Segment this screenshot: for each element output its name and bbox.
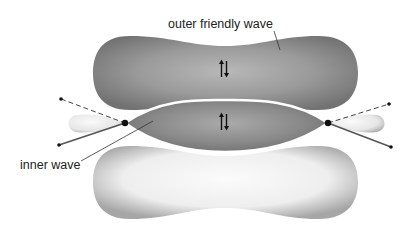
- right-small-lobe: [328, 114, 385, 132]
- left-end-dot-upper: [59, 97, 63, 101]
- left-atom-dot: [122, 120, 128, 126]
- left-small-lobe: [69, 114, 126, 132]
- right-end-dot-upper: [387, 102, 391, 106]
- left-end-dot-lower: [57, 143, 61, 147]
- outer-wave-label: outer friendly wave: [168, 17, 273, 31]
- empty-wave-lobe: [93, 146, 358, 219]
- inner-wave-label: inner wave: [20, 158, 80, 172]
- wave-diagram: outer friendly wave inner wave: [0, 0, 414, 230]
- right-atom-dot: [325, 120, 331, 126]
- right-end-dot-lower: [389, 145, 393, 149]
